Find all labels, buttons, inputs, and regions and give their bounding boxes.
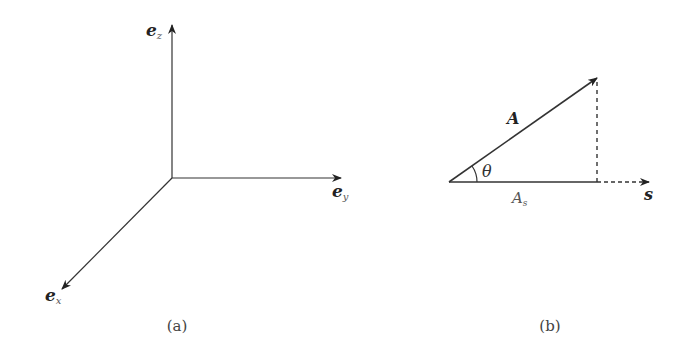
ey-label: ey (332, 181, 349, 202)
vector-a-label: A (505, 109, 519, 128)
vector-a (449, 78, 597, 182)
s-label: s (643, 185, 653, 204)
ex-label: ex (45, 285, 62, 306)
panel-b: A θ As s (b) (449, 78, 653, 335)
diagram-canvas: ez ey ex (a) A θ As s (b) (0, 0, 692, 361)
panel-a: ez ey ex (a) (45, 20, 349, 335)
as-label: As (510, 189, 528, 208)
angle-arc (472, 166, 477, 182)
caption-a: (a) (167, 317, 188, 335)
caption-b: (b) (539, 317, 560, 335)
theta-label: θ (482, 162, 492, 181)
ez-label: ez (146, 20, 163, 41)
x-axis (62, 178, 172, 289)
